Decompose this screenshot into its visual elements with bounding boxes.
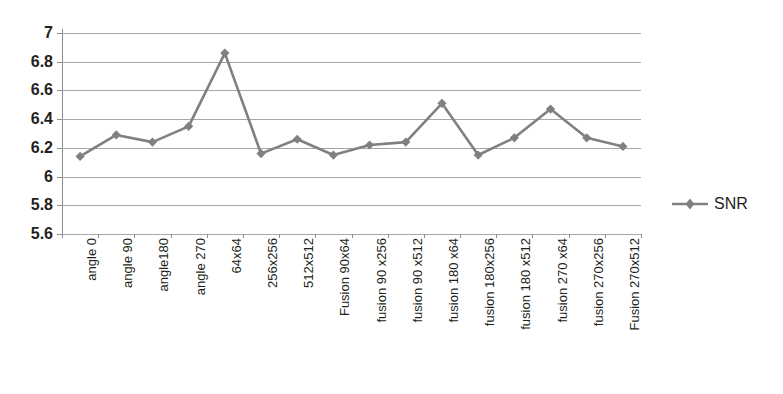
x-tick-label: angle 90 xyxy=(121,238,134,288)
x-tick-mark xyxy=(496,234,497,238)
snr-line-chart: 76.86.66.46.265.85.6 angle 0angle 90angl… xyxy=(0,0,783,394)
data-point-marker xyxy=(148,138,157,147)
plot-area xyxy=(62,33,641,234)
x-tick-label: Fusion 270x512 xyxy=(628,238,641,331)
y-tick-label: 5.8 xyxy=(31,197,53,213)
x-tick-mark xyxy=(243,234,244,238)
x-tick-mark xyxy=(388,234,389,238)
y-tick-label: 7 xyxy=(44,25,53,41)
series-layer xyxy=(62,0,641,234)
x-tick-mark xyxy=(207,234,208,238)
y-tick-label: 6 xyxy=(44,169,53,185)
data-point-marker xyxy=(184,122,193,131)
x-tick-label: fusion 90 x256 xyxy=(375,238,388,323)
x-tick-label: 256x256 xyxy=(266,238,279,288)
x-tick-label: fusion 180 x64 xyxy=(447,238,460,323)
x-tick-label: 64x64 xyxy=(230,238,243,273)
data-point-marker xyxy=(220,49,229,58)
y-tick-label: 6.2 xyxy=(31,140,53,156)
x-tick-label: Fusion 90x64 xyxy=(338,238,351,316)
x-tick-mark xyxy=(532,234,533,238)
x-tick-mark xyxy=(171,234,172,238)
x-tick-label: 512x512 xyxy=(302,238,315,288)
x-tick-label: fusion 90 x512 xyxy=(411,238,424,323)
x-tick-label: angle180 xyxy=(157,238,170,292)
x-tick-mark xyxy=(352,234,353,238)
data-point-marker xyxy=(256,149,265,158)
y-tick-label: 6.6 xyxy=(31,82,53,98)
x-tick-mark xyxy=(641,234,642,238)
x-tick-mark xyxy=(569,234,570,238)
x-tick-mark xyxy=(605,234,606,238)
data-point-marker xyxy=(365,140,374,149)
data-point-marker xyxy=(618,142,627,151)
x-tick-mark xyxy=(98,234,99,238)
y-tick-label: 6.4 xyxy=(31,111,53,127)
legend: SNR xyxy=(672,196,748,212)
y-tick-label: 6.8 xyxy=(31,54,53,70)
y-axis: 76.86.66.46.265.85.6 xyxy=(0,0,57,394)
y-tick-label: 5.6 xyxy=(31,226,53,242)
x-axis: angle 0angle 90angle180angle 27064x64256… xyxy=(62,238,641,388)
x-tick-mark xyxy=(460,234,461,238)
x-tick-mark xyxy=(134,234,135,238)
legend-label-snr: SNR xyxy=(714,196,748,212)
data-point-marker xyxy=(293,135,302,144)
x-tick-mark xyxy=(424,234,425,238)
x-tick-label: fusion 270x256 xyxy=(592,238,605,326)
x-tick-mark xyxy=(315,234,316,238)
legend-series-marker-icon xyxy=(672,196,708,212)
series-line-snr xyxy=(80,53,623,156)
x-tick-label: angle 0 xyxy=(85,238,98,281)
x-tick-label: fusion 180x256 xyxy=(483,238,496,326)
x-tick-label: fusion 180 x512 xyxy=(519,238,532,330)
x-tick-label: fusion 270 x64 xyxy=(556,238,569,323)
x-tick-mark xyxy=(62,234,63,238)
x-tick-mark xyxy=(279,234,280,238)
x-tick-label: angle 270 xyxy=(194,238,207,295)
data-point-marker xyxy=(329,150,338,159)
